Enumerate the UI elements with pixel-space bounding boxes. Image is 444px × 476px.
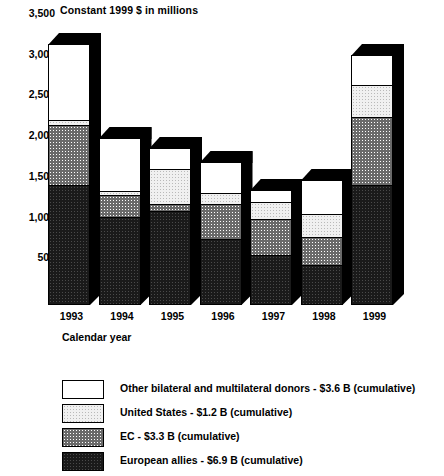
bar-segment-1993-other-bilateral-and-multilateral-donors: [49, 45, 89, 121]
bar-segment-1998-united-states: [302, 215, 342, 238]
legend-label: Other bilateral and multilateral donors …: [120, 382, 415, 394]
legend-item[interactable]: Other bilateral and multilateral donors …: [62, 378, 442, 402]
x-axis-tick-1998: 1998: [298, 310, 351, 322]
legend-swatch: [62, 404, 104, 423]
bar-segment-1997-united-states: [251, 203, 291, 220]
legend-label: United States - $1.2 B (cumulative): [120, 406, 292, 418]
bar-segment-1996-united-states: [201, 194, 241, 205]
legend-swatch: [62, 452, 104, 471]
bar-segment-1999-other-bilateral-and-multilateral-donors: [352, 56, 392, 86]
bar-segment-1996-other-bilateral-and-multilateral-donors: [201, 163, 241, 194]
bar-segment-1996-ec: [201, 205, 241, 240]
legend-label: EC - $3.3 B (cumulative): [120, 430, 240, 442]
bar-1996[interactable]: [200, 151, 242, 305]
x-axis-tick-1993: 1993: [45, 310, 98, 322]
bar-segment-1995-european-allies: [150, 212, 190, 306]
bar-1999[interactable]: [351, 44, 393, 305]
bar-segment-1995-ec: [150, 205, 190, 212]
bar-front-face: [99, 138, 141, 305]
bar-segment-1998-other-bilateral-and-multilateral-donors: [302, 181, 342, 215]
legend-swatch: [62, 380, 104, 399]
legend-item[interactable]: European allies - $6.9 B (cumulative): [62, 450, 442, 474]
bar-segment-1994-ec: [100, 196, 140, 218]
bar-segment-1995-other-bilateral-and-multilateral-donors: [150, 149, 190, 170]
x-axis-tick-1995: 1995: [146, 310, 199, 322]
bar-segment-1997-european-allies: [251, 256, 291, 306]
bar-1995[interactable]: [149, 137, 191, 305]
x-axis-tick-1996: 1996: [197, 310, 250, 322]
bar-segment-1997-ec: [251, 220, 291, 256]
legend-swatch: [62, 428, 104, 447]
bar-segment-1999-united-states: [352, 86, 392, 118]
x-axis-tick-1994: 1994: [96, 310, 149, 322]
bar-side-face: [393, 44, 404, 305]
bar-front-face: [250, 190, 292, 305]
legend-label: European allies - $6.9 B (cumulative): [120, 454, 303, 466]
bar-1998[interactable]: [301, 169, 343, 305]
bar-front-face: [48, 44, 90, 305]
legend-item[interactable]: EC - $3.3 B (cumulative): [62, 426, 442, 450]
bar-segment-1996-european-allies: [201, 240, 241, 305]
chart-legend: Other bilateral and multilateral donors …: [62, 378, 442, 474]
bar-segment-1994-european-allies: [100, 218, 140, 305]
bar-front-face: [301, 180, 343, 305]
bar-series-container: [0, 0, 444, 305]
x-axis-title: Calendar year: [62, 331, 131, 343]
bar-segment-1998-european-allies: [302, 266, 342, 305]
bar-1997[interactable]: [250, 179, 292, 305]
legend-item[interactable]: United States - $1.2 B (cumulative): [62, 402, 442, 426]
bar-1994[interactable]: [99, 127, 141, 305]
bar-segment-1995-united-states: [150, 170, 190, 205]
bar-segment-1993-european-allies: [49, 186, 89, 305]
bar-segment-1994-other-bilateral-and-multilateral-donors: [100, 139, 140, 192]
bar-segment-1999-ec: [352, 118, 392, 186]
x-axis-tick-1997: 1997: [247, 310, 300, 322]
chart-page: Constant 1999 $ in millions 05001,0001,5…: [0, 0, 444, 476]
bar-segment-1999-european-allies: [352, 186, 392, 305]
bar-front-face: [351, 55, 393, 305]
bar-segment-1997-other-bilateral-and-multilateral-donors: [251, 191, 291, 203]
bar-front-face: [149, 148, 191, 305]
bar-1993[interactable]: [48, 33, 90, 305]
bar-segment-1993-ec: [49, 126, 89, 186]
bar-segment-1998-ec: [302, 238, 342, 266]
x-axis-tick-1999: 1999: [348, 310, 401, 322]
plot-area: 05001,0001,5002,0002,5003,0003,500 19931…: [0, 0, 444, 305]
bar-front-face: [200, 162, 242, 305]
